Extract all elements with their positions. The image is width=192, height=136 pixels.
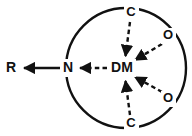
bond-cbottom-dm-line <box>126 81 131 115</box>
atom-label-metal: DM <box>111 59 133 75</box>
atom-label-oxygen-bottom: O <box>163 90 173 105</box>
atom-label-r-group: R <box>6 59 16 75</box>
coordination-complex-figure: DM N R C C O O <box>0 0 192 136</box>
diagram-canvas: DM N R C C O O <box>0 0 192 136</box>
bond-obottom-dm-line <box>135 77 162 92</box>
bond-ctop-dm-line <box>126 22 131 56</box>
atom-label-oxygen-top: O <box>163 27 173 42</box>
bond-otop-dm-line <box>135 44 162 60</box>
atom-label-carbon-top: C <box>126 4 136 19</box>
atom-label-carbon-bottom: C <box>126 115 136 130</box>
atom-label-nitrogen: N <box>63 59 73 75</box>
